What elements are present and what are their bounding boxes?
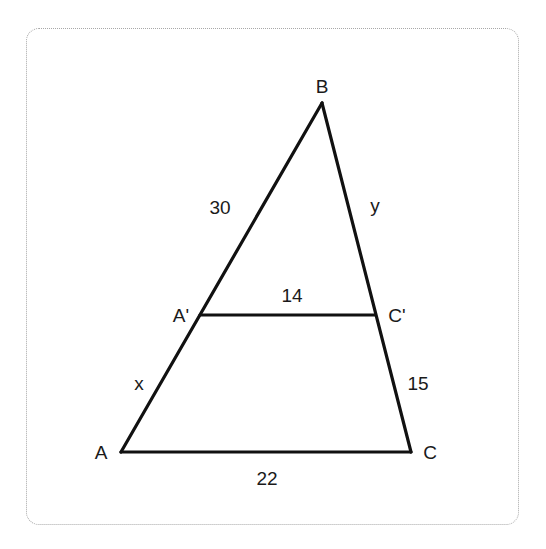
vertex-label-a-prime: A' [173,305,189,326]
triangle-diagram: B A C A' C' 30 y 14 x 15 22 [0,0,546,549]
length-label-ac: 22 [256,468,277,489]
side-bc [322,103,411,452]
length-label-a-prime-c-prime: 14 [281,285,303,306]
vertex-label-a: A [95,442,108,463]
vertex-label-b: B [316,76,329,97]
length-label-a-prime-a: x [134,373,144,394]
length-label-bc-prime: y [370,195,380,216]
length-label-c-prime-c: 15 [407,373,428,394]
vertex-label-c: C [423,442,437,463]
length-label-ba-prime: 30 [209,197,230,218]
vertex-label-c-prime: C' [388,305,405,326]
side-ba [121,103,322,452]
